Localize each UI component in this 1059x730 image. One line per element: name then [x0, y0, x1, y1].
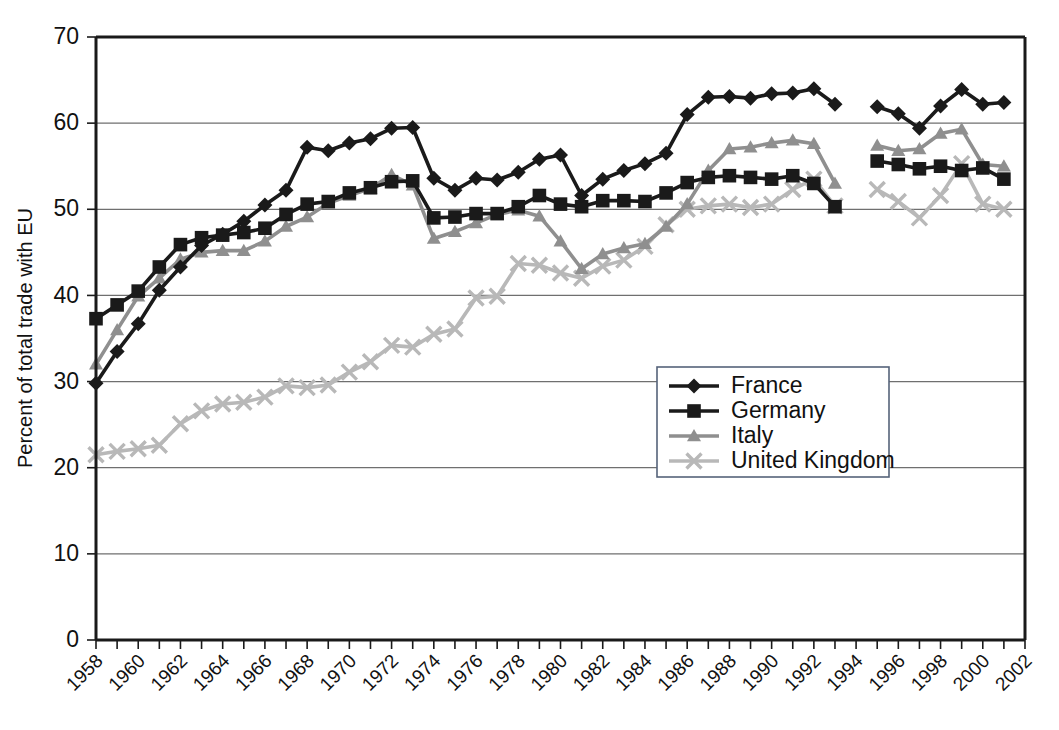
x-tick-label: 1974: [400, 650, 445, 695]
data-point-square: [997, 172, 1011, 186]
data-point-diamond: [342, 135, 357, 150]
x-tick-label: 2000: [949, 650, 994, 695]
x-tick-label: 1970: [315, 650, 360, 695]
data-point-diamond: [553, 148, 568, 163]
data-point-square: [258, 221, 272, 235]
data-point-square: [131, 284, 145, 298]
data-point-square: [687, 404, 701, 418]
x-tick-label: 2002: [991, 650, 1036, 695]
data-point-diamond: [426, 171, 441, 186]
data-point-square: [913, 162, 927, 176]
data-point-diamond: [405, 120, 420, 135]
data-point-square: [638, 195, 652, 209]
x-tick-label: 1990: [738, 650, 783, 695]
y-tick-label: 50: [53, 195, 79, 221]
data-point-diamond: [785, 85, 800, 100]
x-tick-label: 1996: [864, 650, 909, 695]
x-tick-label: 1964: [189, 650, 234, 695]
data-point-square: [892, 158, 906, 172]
data-point-square: [448, 210, 462, 224]
data-point-diamond: [637, 156, 652, 171]
y-tick-label: 60: [53, 109, 79, 135]
data-point-diamond: [469, 171, 484, 186]
data-point-triangle: [955, 122, 969, 134]
data-point-square: [723, 169, 737, 183]
y-tick-label: 10: [53, 540, 79, 566]
data-point-square: [765, 172, 779, 186]
data-point-square: [364, 181, 378, 195]
x-tick-label: 1986: [653, 650, 698, 695]
x-axis-tick-labels: 1958196019621964196619681970197219741976…: [62, 650, 1036, 695]
data-point-square: [174, 238, 188, 252]
data-point-square: [427, 211, 441, 225]
x-tick-label: 1978: [484, 650, 529, 695]
data-point-x: [363, 354, 378, 369]
data-point-square: [300, 197, 314, 211]
data-point-square: [469, 207, 483, 221]
y-axis-tick-labels: 010203040506070: [53, 23, 79, 652]
data-point-diamond: [764, 86, 779, 101]
y-tick-label: 30: [53, 368, 79, 394]
data-point-square: [279, 208, 293, 222]
data-point-diamond: [743, 91, 758, 106]
legend-label: United Kingdom: [731, 447, 895, 473]
data-point-square: [617, 194, 631, 208]
data-point-square: [596, 194, 610, 208]
data-point-square: [153, 260, 167, 274]
data-point-x: [870, 182, 885, 197]
y-tick-label: 20: [53, 454, 79, 480]
x-tick-label: 1982: [569, 650, 614, 695]
legend-label: France: [731, 372, 803, 398]
data-point-diamond: [870, 99, 885, 114]
data-point-diamond: [722, 89, 737, 104]
data-point-diamond: [321, 143, 336, 158]
x-tick-label: 1994: [822, 650, 867, 695]
axes: [96, 37, 1025, 640]
data-point-diamond: [447, 183, 462, 198]
x-tick-label: 1998: [907, 650, 952, 695]
data-point-x: [342, 365, 357, 380]
legend: FranceGermanyItalyUnited Kingdom: [657, 367, 895, 477]
data-point-square: [490, 207, 504, 221]
x-tick-label: 1968: [273, 650, 318, 695]
data-point-square: [701, 171, 715, 185]
data-point-x: [891, 194, 906, 209]
data-point-square: [110, 298, 124, 312]
data-point-square: [343, 186, 357, 200]
data-point-diamond: [616, 163, 631, 178]
data-point-triangle: [870, 139, 884, 151]
data-point-diamond: [300, 140, 315, 155]
data-point-diamond: [363, 131, 378, 146]
data-point-square: [680, 176, 694, 190]
x-tick-label: 1980: [527, 650, 572, 695]
data-point-x: [933, 188, 948, 203]
x-tick-label: 1992: [780, 650, 825, 695]
y-tick-label: 0: [66, 626, 79, 652]
y-tick-label: 40: [53, 282, 79, 308]
x-tick-label: 1972: [358, 650, 403, 695]
data-point-square: [828, 200, 842, 214]
chart-container: 010203040506070 195819601962196419661968…: [0, 0, 1059, 730]
data-point-square: [533, 189, 547, 203]
x-tick-label: 1966: [231, 650, 276, 695]
data-point-diamond: [659, 146, 674, 161]
data-point-diamond: [490, 172, 505, 187]
series-france: [89, 81, 1012, 391]
data-point-square: [786, 169, 800, 183]
y-axis-title: Percent of total trade with EU: [14, 208, 36, 468]
gridlines: [96, 123, 1025, 554]
x-tick-label: 1984: [611, 650, 656, 695]
data-point-square: [554, 197, 568, 211]
data-point-diamond: [996, 95, 1011, 110]
data-point-triangle: [828, 176, 842, 188]
trade-share-line-chart: 010203040506070 195819601962196419661968…: [0, 0, 1059, 730]
data-point-square: [976, 161, 990, 175]
series-germany: [89, 154, 1010, 325]
data-point-square: [659, 186, 673, 200]
data-point-square: [744, 171, 758, 185]
legend-label: Italy: [731, 422, 774, 448]
data-point-square: [406, 174, 420, 188]
x-tick-label: 1958: [62, 650, 107, 695]
data-point-square: [321, 195, 335, 209]
legend-label: Germany: [731, 397, 826, 423]
